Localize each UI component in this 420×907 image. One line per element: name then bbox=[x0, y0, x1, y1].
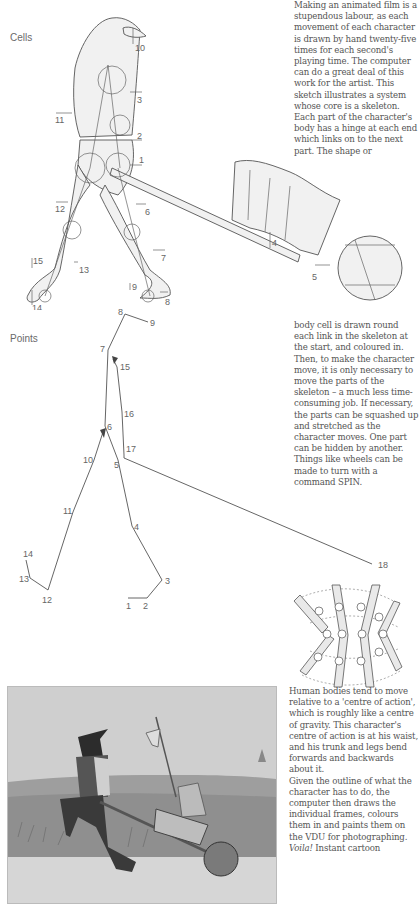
svg-text:16: 16 bbox=[124, 409, 134, 419]
cartoon-still-photo bbox=[7, 686, 277, 904]
svg-text:13: 13 bbox=[79, 265, 89, 275]
svg-text:9: 9 bbox=[132, 282, 137, 292]
svg-text:12: 12 bbox=[55, 204, 65, 214]
svg-text:7: 7 bbox=[161, 253, 166, 263]
svg-text:4: 4 bbox=[134, 522, 139, 532]
cartoon-still-image bbox=[8, 687, 276, 903]
svg-text:17: 17 bbox=[126, 444, 136, 454]
svg-text:10: 10 bbox=[135, 43, 145, 53]
svg-text:11: 11 bbox=[63, 506, 72, 516]
joint-chain-diagram bbox=[0, 575, 420, 695]
svg-text:4: 4 bbox=[272, 238, 277, 248]
svg-text:18: 18 bbox=[378, 560, 388, 570]
intro-paragraph: Making an animated film is a stupendous … bbox=[294, 0, 420, 157]
svg-text:1: 1 bbox=[139, 155, 144, 165]
centre-of-action-text: Human bodies tend to move relative to a … bbox=[289, 686, 420, 776]
svg-text:11: 11 bbox=[55, 115, 64, 125]
svg-text:7: 7 bbox=[100, 344, 105, 354]
svg-text:5: 5 bbox=[114, 460, 119, 470]
instant-cartoon-text: Instant cartoon bbox=[313, 843, 380, 853]
centre-of-action-paragraph: Human bodies tend to move relative to a … bbox=[289, 686, 420, 854]
svg-text:15: 15 bbox=[120, 362, 130, 372]
voila-text: Voila! bbox=[289, 843, 313, 853]
svg-text:6: 6 bbox=[107, 422, 112, 432]
svg-text:15: 15 bbox=[33, 256, 43, 266]
skeleton-paragraph: body cell is drawn round each link in th… bbox=[294, 320, 420, 488]
computer-draws-text: Given the outline of what the character … bbox=[289, 776, 420, 854]
svg-text:9: 9 bbox=[150, 318, 155, 328]
svg-text:3: 3 bbox=[137, 95, 142, 105]
svg-text:5: 5 bbox=[312, 272, 317, 282]
svg-text:8: 8 bbox=[118, 307, 123, 317]
svg-text:10: 10 bbox=[83, 455, 93, 465]
svg-text:2: 2 bbox=[137, 131, 142, 141]
computer-draws-sentence: Given the outline of what the character … bbox=[289, 776, 412, 842]
svg-text:14: 14 bbox=[23, 549, 33, 559]
svg-text:6: 6 bbox=[145, 207, 150, 217]
